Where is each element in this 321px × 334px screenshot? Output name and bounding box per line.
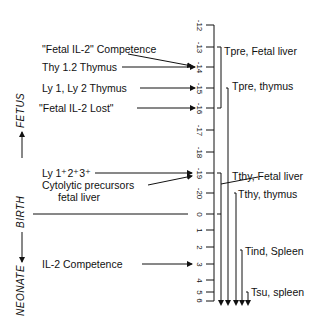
tick-label: -17 (195, 123, 204, 139)
tick-label: -18 (195, 145, 204, 161)
stage-tind-spleen: Tind, Spleen (245, 245, 304, 257)
tick-label: -12 (195, 18, 204, 34)
tick-label: -16 (195, 101, 204, 117)
tick-label: 2 (195, 240, 204, 256)
stage-tthy-fetal-liver: Tthy, Fetal liver (232, 170, 303, 182)
event-il2-competence: IL-2 Competence (42, 258, 123, 270)
tick-label: -14 (195, 60, 204, 76)
stage-tsu-spleen: Tsu, spleen (251, 286, 304, 298)
tick-label: 1 (195, 223, 204, 239)
tick-label: -19 (195, 166, 204, 182)
side-label-neonate: NEONATE (15, 265, 26, 316)
tick-label: -20 (195, 186, 204, 202)
tick-label: 3 (195, 257, 204, 273)
event-thy12-thymus: Thy 1.2 Thymus (42, 61, 117, 73)
side-label-fetus: FETUS (15, 93, 26, 128)
event-fetal-il2-competence: "Fetal IL-2" Competence (42, 43, 156, 55)
stage-tpre-fetal-liver: Tpre, Fetal liver (224, 45, 297, 57)
side-label-birth: BIRTH (15, 196, 26, 228)
stage-tpre-thymus: Tpre, thymus (232, 80, 293, 92)
event-ly1-ly2-thymus: Ly 1, Ly 2 Thymus (42, 82, 127, 94)
tick-label: -15 (195, 81, 204, 97)
event-cytolytic-precursors: Cytolytic precursors (42, 179, 134, 191)
event-ly123: Ly 1⁺2⁺3⁺ (42, 167, 91, 179)
tick-label: 0 (195, 207, 204, 223)
event-fetal-liver: fetal liver (58, 191, 100, 203)
tick-label: -13 (195, 40, 204, 56)
tick-label: 6 (195, 293, 204, 309)
event-fetal-il2-lost: "Fetal IL-2 Lost" (39, 102, 114, 114)
stage-tthy-thymus: Tthy, thymus (238, 188, 297, 200)
